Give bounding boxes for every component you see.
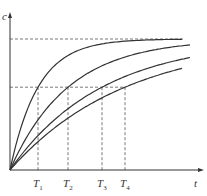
tick-T1: T1 xyxy=(33,178,43,192)
y-axis-label: c xyxy=(2,11,7,22)
x-axis-arrow-icon xyxy=(198,168,204,172)
curve-3 xyxy=(10,58,190,171)
tick-T2: T2 xyxy=(63,178,73,192)
curve-1 xyxy=(10,39,182,170)
curve-4 xyxy=(10,68,182,170)
tick-T3: T3 xyxy=(97,178,107,192)
curves xyxy=(10,39,190,170)
y-axis-arrow-icon xyxy=(8,12,12,18)
plot-area xyxy=(0,0,207,196)
dashed-guides xyxy=(10,39,183,170)
x-axis-label: t xyxy=(194,178,197,189)
tick-T4: T4 xyxy=(120,178,130,192)
diagram: c t T1 T2 T3 T4 xyxy=(0,0,207,196)
